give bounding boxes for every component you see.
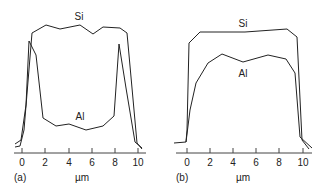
- x-ticks-a: [22, 148, 138, 153]
- tick-label: 10: [297, 157, 309, 168]
- al-curve-a: [15, 41, 142, 148]
- x-axis-unit-a: µm: [75, 172, 89, 183]
- tick-label: 2: [42, 157, 48, 168]
- si-label-b: Si: [239, 18, 248, 29]
- si-label-a: Si: [75, 11, 84, 22]
- tick-label: 8: [276, 157, 282, 168]
- panel-a: 0 2 4 6 8 10 (a) µm Si Al: [14, 11, 146, 183]
- tick-label: 0: [184, 157, 190, 168]
- al-label-a: Al: [76, 111, 85, 122]
- tick-label: 6: [253, 157, 259, 168]
- al-label-b: Al: [239, 68, 248, 79]
- x-ticks-b: [187, 148, 303, 153]
- panel-b: 0 2 4 6 8 10 (b) µm Si Al: [174, 18, 312, 183]
- si-curve-a: [15, 25, 142, 149]
- tick-label: 4: [66, 157, 72, 168]
- panel-label-a: (a): [14, 172, 26, 183]
- panel-label-b: (b): [176, 172, 188, 183]
- tick-label: 2: [207, 157, 213, 168]
- figure: 0 2 4 6 8 10 (a) µm Si Al 0 2 4 6 8 10 (…: [0, 0, 319, 194]
- tick-label: 4: [230, 157, 236, 168]
- tick-label: 0: [19, 157, 25, 168]
- tick-label: 8: [112, 157, 118, 168]
- x-axis-unit-b: µm: [236, 172, 250, 183]
- al-curve-b: [186, 54, 312, 148]
- tick-label: 6: [89, 157, 95, 168]
- tick-label: 10: [132, 157, 144, 168]
